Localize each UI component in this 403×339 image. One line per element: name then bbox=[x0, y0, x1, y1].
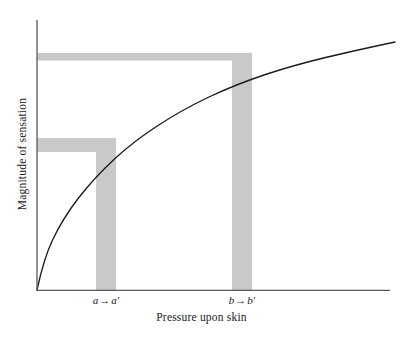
stimulus-band-b bbox=[232, 57, 252, 290]
y-axis-title: Magnitude of sensation bbox=[16, 59, 28, 249]
x-tick-a-primed: a′ bbox=[111, 294, 119, 306]
x-tick-a-arrow-icon: → bbox=[98, 294, 111, 306]
x-tick-label-a: a→a′ bbox=[76, 294, 136, 306]
x-tick-b-arrow-icon: → bbox=[234, 294, 247, 306]
x-tick-label-b: b→b′ bbox=[212, 294, 272, 306]
x-axis-title: Pressure upon skin bbox=[0, 311, 403, 323]
sensation-band-b bbox=[37, 53, 252, 61]
sensation-response-curve bbox=[37, 42, 395, 290]
x-tick-b-primed: b′ bbox=[247, 294, 255, 306]
stimulus-band-a bbox=[96, 143, 116, 290]
chart-plot-area bbox=[0, 0, 403, 339]
psychophysics-curve-figure: a→a′ b→b′ Pressure upon skin Magnitude o… bbox=[0, 0, 403, 339]
